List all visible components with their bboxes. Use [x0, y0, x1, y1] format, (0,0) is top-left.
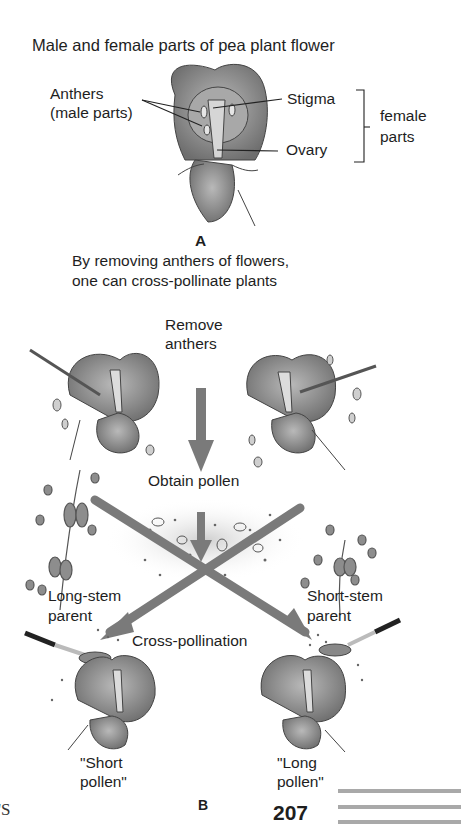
panel-b-letter: B — [198, 797, 208, 813]
decorative-rule-2 — [338, 805, 461, 809]
pea-flower-diagram-a — [171, 64, 267, 226]
panel-a-caption-line2: one can cross-pollinate plants — [72, 272, 277, 290]
paintbrush-right — [319, 620, 400, 656]
label-long-stem: Long-stem — [48, 587, 121, 605]
arrow-down-icon — [188, 388, 214, 472]
label-long-pollen-line2: pollen" — [277, 773, 324, 791]
flower-long-pollen — [261, 655, 345, 752]
label-short-pollen-line1: "Short — [80, 754, 123, 772]
panel-a-title: Male and female parts of pea plant flowe… — [32, 36, 335, 55]
flower-left-remove-anthers — [30, 350, 159, 460]
label-short-stem: Short-stem — [307, 587, 383, 605]
label-short-stem-parent: parent — [307, 607, 351, 625]
label-stigma: Stigma — [287, 90, 335, 108]
label-anthers: Anthers — [50, 85, 103, 103]
label-short-pollen-line2: pollen" — [80, 773, 127, 791]
label-anthers-step: anthers — [165, 335, 217, 353]
label-male-parts: (male parts) — [50, 104, 133, 122]
decorative-rule-1 — [338, 789, 461, 793]
page-number: 207 — [273, 801, 308, 825]
decorative-rule-3 — [338, 820, 461, 824]
label-remove: Remove — [165, 316, 223, 334]
flower-right-remove-anthers — [247, 355, 376, 470]
folio-fragment: 'S — [0, 800, 11, 820]
panel-a-letter: A — [195, 232, 206, 250]
flower-short-pollen — [68, 656, 155, 750]
label-long-pollen-line1: "Long — [277, 754, 317, 772]
label-parts: parts — [380, 128, 414, 146]
label-long-stem-parent: parent — [48, 607, 92, 625]
label-female: female — [380, 107, 427, 125]
label-ovary: Ovary — [286, 141, 327, 159]
panel-a-caption-line1: By removing anthers of flowers, — [72, 252, 289, 270]
label-obtain-pollen: Obtain pollen — [148, 472, 239, 490]
label-cross-pollination: Cross-pollination — [132, 632, 247, 650]
